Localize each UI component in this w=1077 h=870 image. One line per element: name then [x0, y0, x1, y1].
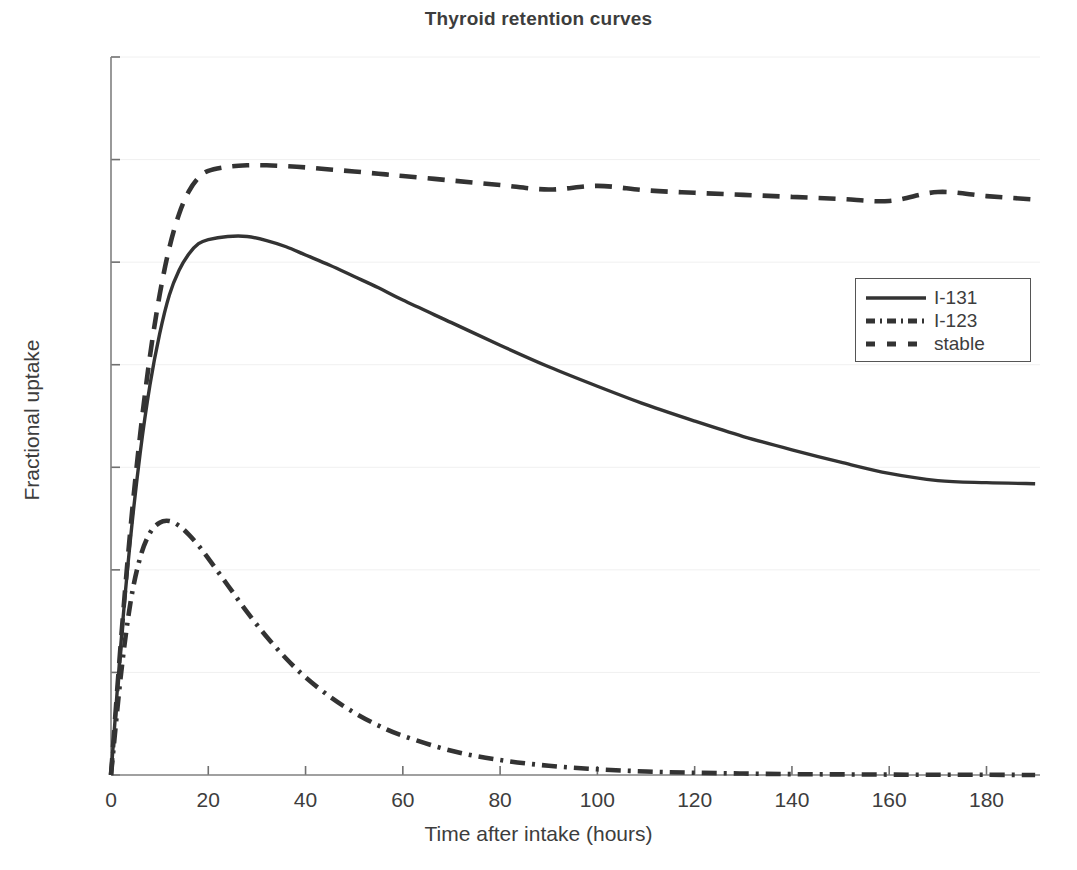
legend-item-i-123[interactable]: I-123: [856, 309, 1030, 332]
series-line-stable: [111, 165, 1035, 775]
data-series-group: [111, 165, 1035, 775]
legend-label: I-123: [934, 311, 977, 330]
x-tick-label: 60: [363, 789, 443, 810]
x-tick-label: 100: [557, 789, 637, 810]
x-tick-label: 120: [655, 789, 735, 810]
plot-svg: [111, 57, 1040, 775]
x-tick-label: 140: [752, 789, 832, 810]
legend-swatch-i-131: [865, 292, 927, 304]
x-tick-label: 40: [266, 789, 346, 810]
x-tick-label: 20: [168, 789, 248, 810]
legend-label: stable: [934, 334, 985, 353]
legend-label: I-131: [934, 288, 977, 307]
x-tick-label: 180: [946, 789, 1026, 810]
legend: I-131I-123stable: [855, 278, 1031, 362]
legend-item-stable[interactable]: stable: [856, 332, 1030, 355]
x-axis-label: Time after intake (hours): [0, 822, 1077, 846]
legend-swatch-i-123: [865, 315, 927, 327]
gridlines: [111, 57, 1040, 672]
x-tick-label: 0: [71, 789, 151, 810]
legend-item-i-131[interactable]: I-131: [856, 286, 1030, 309]
chart-title: Thyroid retention curves: [0, 8, 1077, 30]
axis-lines: [111, 57, 1040, 775]
y-axis-label: Fractional uptake: [20, 200, 44, 640]
series-line-i-123: [111, 521, 1035, 775]
x-tick-label: 160: [849, 789, 929, 810]
plot-area: 00.050.10.150.20.250.30.35 0204060801001…: [111, 57, 1040, 775]
chart-figure: Thyroid retention curves Fractional upta…: [0, 0, 1077, 870]
x-tick-label: 80: [460, 789, 540, 810]
legend-swatch-stable: [865, 338, 927, 350]
